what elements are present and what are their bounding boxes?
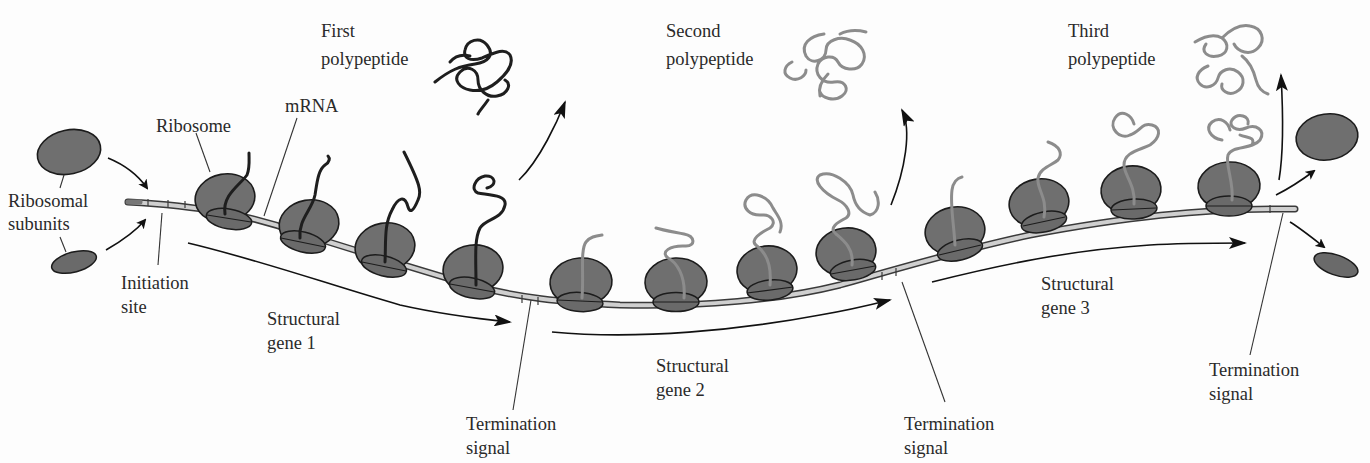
gene2-label: Structural bbox=[656, 356, 729, 376]
first-polypeptide-icon bbox=[435, 40, 511, 114]
ribosomal-subunits-label: subunits bbox=[8, 214, 70, 234]
termination3-leader bbox=[1250, 213, 1283, 355]
third-polypeptide-label: polypeptide bbox=[1068, 49, 1155, 69]
gene1-label: gene 1 bbox=[267, 333, 316, 353]
initiation-site-label: Initiation bbox=[121, 273, 189, 293]
termination-signal-3-label: Termination bbox=[1209, 360, 1299, 380]
released-small-subunit-icon bbox=[1311, 248, 1361, 283]
diagram-canvas: Ribosomal subunits Ribosome mRNA Initiat… bbox=[0, 0, 1370, 463]
release-arrow-2 bbox=[891, 110, 907, 205]
ribosome-icon bbox=[735, 195, 800, 302]
initiation-site-label: site bbox=[121, 297, 147, 317]
ribosome-leader bbox=[196, 133, 210, 172]
termination1-leader bbox=[513, 300, 531, 410]
ribosome-icon bbox=[921, 177, 988, 265]
termination-signal-1-label: Termination bbox=[466, 414, 556, 434]
ribosome-icon bbox=[1196, 116, 1261, 216]
mrna-label: mRNA bbox=[285, 96, 339, 116]
termination-signal-2-label: Termination bbox=[904, 414, 994, 434]
second-polypeptide-label: Second bbox=[666, 21, 721, 41]
initiation-site-leader bbox=[158, 213, 162, 265]
release-arrow-3 bbox=[1279, 75, 1283, 180]
gene3-label: gene 3 bbox=[1041, 298, 1090, 318]
third-polypeptide-label: Third bbox=[1068, 21, 1110, 41]
ribosome-label: Ribosome bbox=[156, 116, 231, 136]
termination-signal-3-label: signal bbox=[1209, 384, 1253, 404]
translation-diagram: Ribosomal subunits Ribosome mRNA Initiat… bbox=[0, 0, 1370, 463]
gene1-label: Structural bbox=[267, 309, 340, 329]
ribosomal-subunits-label: Ribosomal bbox=[8, 191, 88, 211]
small-subunit-icon bbox=[49, 246, 99, 277]
first-polypeptide-label: First bbox=[321, 21, 356, 41]
second-polypeptide-icon bbox=[785, 31, 866, 99]
termination2-leader bbox=[902, 282, 945, 402]
free-subunits-right bbox=[1276, 110, 1361, 282]
ribosome-icon bbox=[813, 174, 879, 284]
ribosome-icon bbox=[1099, 113, 1164, 220]
third-polypeptide-icon bbox=[1195, 26, 1268, 94]
ribosome-icon bbox=[440, 176, 506, 303]
second-polypeptide-label: polypeptide bbox=[666, 49, 753, 69]
ribosome-icon bbox=[191, 153, 258, 233]
gene1-ribosomes bbox=[191, 152, 506, 303]
gene2-label: gene 2 bbox=[656, 380, 705, 400]
ribosome-icon bbox=[644, 228, 708, 312]
large-subunit-icon bbox=[33, 124, 105, 180]
released-large-subunit-icon bbox=[1293, 110, 1361, 164]
release-arrow-1 bbox=[519, 102, 565, 180]
ribosome-icon bbox=[351, 152, 419, 281]
ribosome-icon bbox=[1005, 142, 1072, 237]
termination-signal-1-label: signal bbox=[466, 438, 510, 458]
gene2-ribosomes bbox=[548, 174, 879, 313]
termination-signal-2-label: signal bbox=[904, 438, 948, 458]
first-polypeptide-label: polypeptide bbox=[321, 49, 408, 69]
labels: Ribosomal subunits Ribosome mRNA Initiat… bbox=[8, 21, 1299, 458]
gene3-label: Structural bbox=[1041, 274, 1114, 294]
mrna-leader bbox=[264, 118, 297, 216]
